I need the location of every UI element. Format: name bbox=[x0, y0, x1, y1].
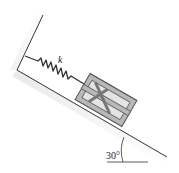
wall-shading bbox=[10, 15, 43, 70]
crate bbox=[75, 74, 137, 127]
wall bbox=[17, 15, 43, 70]
incline-diagram: k 30° bbox=[0, 0, 179, 173]
angle-label: 30° bbox=[106, 150, 120, 161]
spring-constant-label: k bbox=[58, 54, 63, 65]
angle-arc bbox=[121, 137, 124, 162]
diagram-canvas: k 30° bbox=[0, 0, 179, 173]
